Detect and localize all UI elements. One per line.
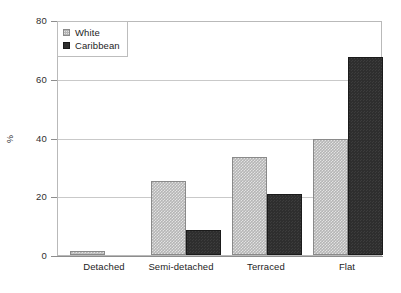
x-axis-line (57, 256, 383, 257)
legend-label-caribbean: Caribbean (75, 40, 120, 51)
chart-legend: White Caribbean (57, 21, 128, 57)
bar-caribbean-terraced (267, 194, 302, 255)
y-tick-label-80: 80 (23, 16, 47, 26)
bar-white-detached (70, 251, 105, 255)
bar-white-terraced (232, 157, 267, 255)
legend-swatch-dark-icon (63, 42, 70, 49)
bar-white-flat (313, 139, 348, 256)
gridline-60 (58, 80, 381, 81)
y-axis-tick-labels: 80 60 40 20 0 (14, 0, 47, 293)
x-tick-label-flat: Flat (297, 261, 397, 272)
y-tick-label-60: 60 (23, 75, 47, 85)
bar-white-semi-detached (151, 181, 186, 255)
legend-label-white: White (75, 27, 100, 38)
legend-swatch-light-gray-icon (63, 29, 70, 36)
legend-item-white: White (63, 26, 120, 39)
y-tick-label-0: 0 (23, 251, 47, 261)
bar-caribbean-semi-detached (186, 230, 221, 255)
bar-caribbean-flat (348, 57, 383, 255)
bar-chart: % 80 60 40 20 0 Detached Semi-detached T… (0, 0, 401, 293)
y-tick-label-40: 40 (23, 134, 47, 144)
legend-item-caribbean: Caribbean (63, 39, 120, 52)
y-tick-label-20: 20 (23, 192, 47, 202)
